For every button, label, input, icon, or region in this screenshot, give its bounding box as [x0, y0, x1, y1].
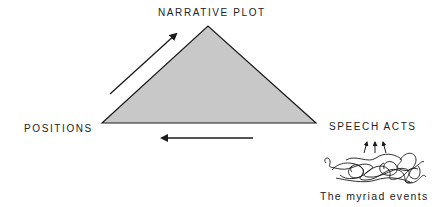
- diagram-canvas: [0, 0, 442, 207]
- tangle-scribble-icon: [325, 153, 426, 183]
- label-myriad-events: The myriad events: [320, 190, 428, 202]
- triangle: [102, 26, 316, 123]
- label-positions: POSITIONS: [24, 123, 93, 134]
- label-narrative-plot: NARRATIVE PLOT: [158, 7, 266, 18]
- small-up-arrows: [364, 142, 386, 153]
- label-speech-acts: SPEECH ACTS: [329, 121, 417, 132]
